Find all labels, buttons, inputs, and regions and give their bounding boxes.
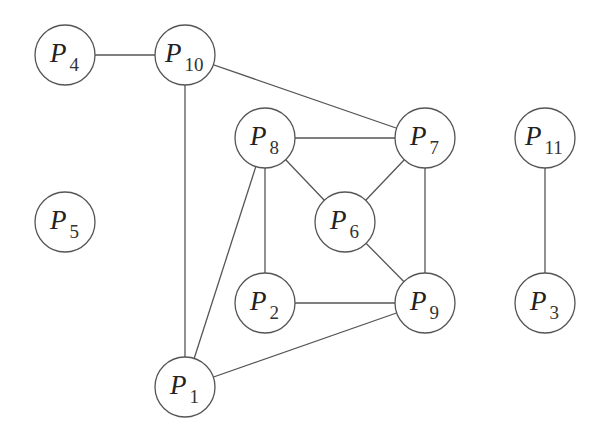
node-p9: P9: [395, 273, 455, 333]
node-p2: P2: [235, 273, 295, 333]
node-p10: P10: [155, 25, 215, 85]
node-p11: P11: [515, 108, 575, 168]
node-p5: P5: [35, 192, 95, 252]
node-layer: P1P2P3P4P5P6P7P8P9P10P11: [35, 25, 575, 417]
edge-p9-p1: [185, 303, 425, 387]
node-p3: P3: [515, 273, 575, 333]
node-p6: P6: [315, 192, 375, 252]
edge-p8-p1: [185, 138, 265, 387]
node-p8: P8: [235, 108, 295, 168]
edge-layer: [65, 55, 545, 387]
node-p4: P4: [35, 25, 95, 85]
node-p1: P1: [155, 357, 215, 417]
node-p7: P7: [395, 108, 455, 168]
graph-diagram: P1P2P3P4P5P6P7P8P9P10P11: [0, 0, 612, 434]
edge-p10-p7: [185, 55, 425, 138]
